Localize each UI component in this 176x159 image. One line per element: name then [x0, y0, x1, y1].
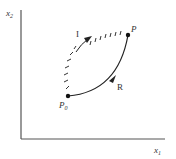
y-axis-label: x2: [5, 8, 13, 19]
state-space-diagram: x2 x1 R I P0: [0, 0, 176, 159]
path-R-label: R: [117, 82, 123, 92]
diagram-canvas: x2 x1 R I P0: [0, 0, 176, 159]
start-point-label: P0: [58, 100, 68, 111]
start-point-P0: [66, 94, 70, 98]
end-point-P: [126, 33, 130, 37]
end-point-label: P: [130, 24, 137, 34]
x-axis-label: x1: [153, 145, 161, 156]
path-I-label: I: [76, 29, 79, 39]
